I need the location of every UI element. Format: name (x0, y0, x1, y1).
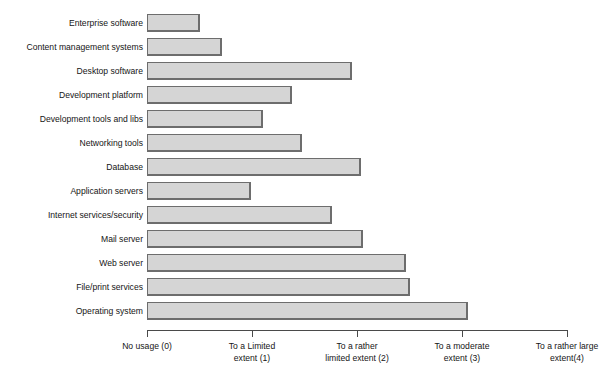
bar (147, 230, 363, 248)
chart-row: Operating system (0, 302, 612, 320)
chart-row: Enterprise software (0, 14, 612, 32)
chart-row: Networking tools (0, 134, 612, 152)
bar (147, 302, 468, 320)
category-label: Networking tools (79, 134, 143, 152)
bar (147, 14, 200, 32)
chart-row: Content management systems (0, 38, 612, 56)
chart-row: Database (0, 158, 612, 176)
category-label: Development tools and libs (40, 110, 143, 128)
category-label: File/print services (76, 278, 143, 296)
bar (147, 62, 352, 80)
chart-row: Development platform (0, 86, 612, 104)
category-label: Mail server (101, 230, 143, 248)
bar (147, 182, 251, 200)
category-label: Application servers (70, 182, 143, 200)
category-label: Database (106, 158, 143, 176)
bar (147, 254, 406, 272)
bar (147, 206, 332, 224)
chart-row: Web server (0, 254, 612, 272)
axis-tick-label: To a Limited extent (1) (192, 341, 312, 364)
plot-area: Enterprise softwareContent management sy… (0, 0, 612, 370)
category-label: Internet services/security (48, 206, 143, 224)
category-label: Enterprise software (69, 14, 143, 32)
axis-tick-label: To a rather limited extent (2) (297, 341, 417, 364)
category-label: Desktop software (77, 62, 143, 80)
axis-end-cap (147, 330, 148, 337)
chart-row: Development tools and libs (0, 110, 612, 128)
category-label: Operating system (76, 302, 143, 320)
axis-tick-label: To a moderate extent (3) (402, 341, 522, 364)
chart-row: Mail server (0, 230, 612, 248)
bar (147, 86, 292, 104)
category-label: Development platform (59, 86, 143, 104)
bar-chart: Enterprise softwareContent management sy… (0, 0, 612, 370)
bar (147, 38, 222, 56)
axis-end-cap (567, 330, 568, 337)
chart-row: Internet services/security (0, 206, 612, 224)
axis-tick (462, 330, 463, 337)
chart-row: Desktop software (0, 62, 612, 80)
bar (147, 278, 410, 296)
bar (147, 158, 361, 176)
category-label: Web server (99, 254, 143, 272)
axis-tick-label: To a rather large extent(4) (507, 341, 612, 364)
category-label: Content management systems (26, 38, 143, 56)
chart-row: Application servers (0, 182, 612, 200)
chart-row: File/print services (0, 278, 612, 296)
axis-tick (252, 330, 253, 337)
bar (147, 134, 302, 152)
axis-tick (357, 330, 358, 337)
bar (147, 110, 263, 128)
axis-tick-label: No usage (0) (87, 341, 207, 353)
